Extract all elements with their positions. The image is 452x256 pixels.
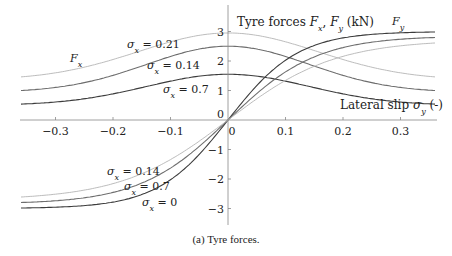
- y-tick-label: 0: [217, 108, 224, 121]
- y-tick-label: −3: [208, 203, 224, 216]
- x-tick-label: −0.2: [100, 125, 127, 138]
- fy-annotation-sigma-0: σx = 0: [142, 196, 177, 213]
- x-tick-label: −0.1: [157, 125, 184, 138]
- x-tick-label: 0.1: [277, 125, 295, 138]
- fx-annotation-sigma-07: σx = 0.7: [163, 83, 209, 100]
- tyre-forces-chart: −0.3−0.2−0.100.10.20.3−3−2−10123 Tyre fo…: [0, 0, 452, 256]
- x-tick-label: 0: [229, 125, 236, 138]
- x-tick-label: 0.3: [392, 125, 410, 138]
- x-tick-label: −0.3: [42, 125, 69, 138]
- figure-caption: (a) Tyre forces.: [0, 233, 452, 245]
- fy-series-label: Fy: [391, 15, 405, 32]
- y-tick-label: 2: [217, 55, 224, 68]
- tick-group: −0.3−0.2−0.100.10.20.3−3−2−10123: [42, 26, 409, 216]
- x-axis-title: Lateral slip σy (-): [340, 98, 443, 116]
- fy-annotation-sigma-07: σx = 0.7: [124, 180, 170, 197]
- y-tick-label: −2: [208, 173, 224, 186]
- y-tick-label: −1: [208, 144, 224, 157]
- y-tick-label: 3: [217, 26, 224, 39]
- y-tick-label: 1: [217, 85, 224, 98]
- fx-series-label: Fx: [69, 52, 83, 69]
- fx-annotation-sigma-021: σx = 0.21: [127, 38, 180, 55]
- x-tick-label: 0.2: [334, 125, 352, 138]
- y-axis-title: Tyre forces Fx, Fy (kN): [237, 15, 374, 33]
